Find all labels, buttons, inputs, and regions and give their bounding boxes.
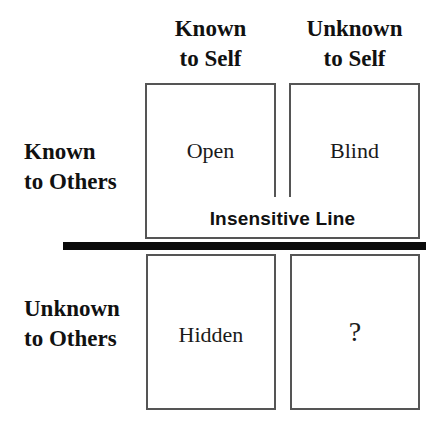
quadrant-unknown-label: ? <box>292 316 418 348</box>
row-label-line2: to Others <box>24 324 144 354</box>
open-box-inner-border <box>274 83 276 197</box>
row-label-line2: to Others <box>24 167 144 197</box>
column-header-unknown-to-self: Unknown to Self <box>289 14 420 74</box>
column-header-line1: Unknown <box>289 14 420 44</box>
open-box-top-border <box>145 83 276 85</box>
insensitive-line-label: Insensitive Line <box>147 208 418 230</box>
quadrant-open-label: Open <box>147 138 274 164</box>
row-label-unknown-to-others: Unknown to Others <box>24 294 144 354</box>
blind-box-right-border <box>418 83 420 239</box>
column-header-line2: to Self <box>289 44 420 74</box>
column-header-known-to-self: Known to Self <box>145 14 276 74</box>
quadrant-hidden-label: Hidden <box>148 322 274 348</box>
top-group-bottom-border <box>145 237 420 239</box>
row-label-line1: Known <box>24 137 144 167</box>
row-label-known-to-others: Known to Others <box>24 137 144 197</box>
quadrant-blind-label: Blind <box>291 138 418 164</box>
column-header-line2: to Self <box>145 44 276 74</box>
blind-box-top-border <box>289 83 420 85</box>
row-label-line1: Unknown <box>24 294 144 324</box>
insensitive-line-separator <box>63 242 426 250</box>
column-header-line1: Known <box>145 14 276 44</box>
